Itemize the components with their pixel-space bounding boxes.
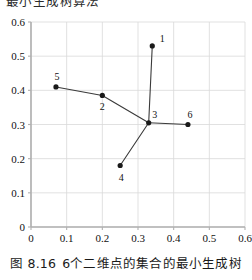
scatter-plot-svg	[0, 9, 252, 247]
point-label-5: 5	[54, 70, 59, 81]
y-tick-label: 0.3	[0, 119, 25, 131]
caption-text: 6个二维点的集合的最小生成树	[62, 256, 242, 271]
clipped-header-strip: 最小生成树算法	[0, 0, 252, 9]
data-point-2	[100, 93, 105, 98]
data-point-5	[53, 84, 58, 89]
point-label-6: 6	[187, 108, 192, 119]
clipped-header-text: 最小生成树算法	[6, 0, 100, 9]
figure-root: 最小生成树算法 00.10.20.30.40.50.600.10.20.30.4…	[0, 0, 252, 280]
x-tick-label: 0.3	[131, 232, 145, 244]
mst-edges	[56, 46, 188, 166]
x-tick-label: 0.1	[60, 232, 74, 244]
y-tick-label: 0.4	[0, 84, 25, 96]
x-tick-label: 0.5	[202, 232, 216, 244]
x-tick-label: 0	[28, 232, 34, 244]
gridlines	[31, 22, 245, 227]
data-point-4	[118, 163, 123, 168]
y-tick-label: 0.1	[0, 187, 25, 199]
y-tick-label: 0.2	[0, 153, 25, 165]
point-label-2: 2	[100, 101, 105, 112]
data-points	[53, 43, 190, 168]
x-tick-label: 0.2	[95, 232, 109, 244]
y-tick-label: 0.5	[0, 50, 25, 62]
caption-number: 图 8.16	[10, 256, 56, 271]
y-tick-label: 0.6	[0, 16, 25, 28]
axis-lines	[28, 22, 245, 230]
data-point-1	[150, 43, 155, 48]
x-tick-label: 0.6	[238, 232, 252, 244]
data-point-3	[146, 120, 151, 125]
plot-area: 00.10.20.30.40.50.600.10.20.30.40.50.6 1…	[0, 9, 252, 247]
data-point-6	[185, 122, 190, 127]
y-tick-label: 0	[0, 221, 25, 233]
point-label-4: 4	[119, 171, 124, 182]
point-label-1: 1	[160, 32, 165, 43]
point-label-3: 3	[152, 108, 157, 119]
x-tick-label: 0.4	[167, 232, 181, 244]
figure-caption: 图 8.166个二维点的集合的最小生成树	[0, 253, 252, 272]
